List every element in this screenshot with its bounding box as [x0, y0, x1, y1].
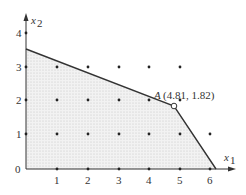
y-tick-label: 4 — [16, 27, 22, 39]
feasible-region — [26, 49, 216, 169]
x-tick-label: 1 — [54, 174, 60, 186]
y-axis-arrow-icon — [24, 13, 29, 21]
x-axis-label: x — [223, 151, 229, 163]
x-tick-label: 2 — [85, 174, 91, 186]
y-axis-label: x — [30, 14, 36, 26]
x-tick-label: 6 — [207, 174, 213, 186]
point-a-marker — [171, 103, 177, 109]
x-axis-label-sub: 1 — [230, 154, 236, 166]
feasible-region-diagram: A (4.81, 1.82) 1 2 3 4 5 6 0 1 2 3 4 x 2… — [0, 0, 246, 195]
x-axis-arrow-icon — [228, 167, 236, 172]
x-tick-label: 4 — [146, 174, 152, 186]
y-tick-label: 3 — [16, 61, 22, 73]
y-tick-label: 1 — [16, 128, 22, 140]
x-tick-label: 3 — [116, 174, 122, 186]
x-tick-label: 5 — [177, 174, 183, 186]
y-axis-label-sub: 2 — [37, 17, 43, 29]
point-a-coords: (4.81, 1.82) — [163, 89, 215, 102]
y-tick-label: 2 — [16, 94, 22, 106]
point-a-label: A — [153, 89, 161, 101]
origin-label: 0 — [15, 163, 21, 175]
